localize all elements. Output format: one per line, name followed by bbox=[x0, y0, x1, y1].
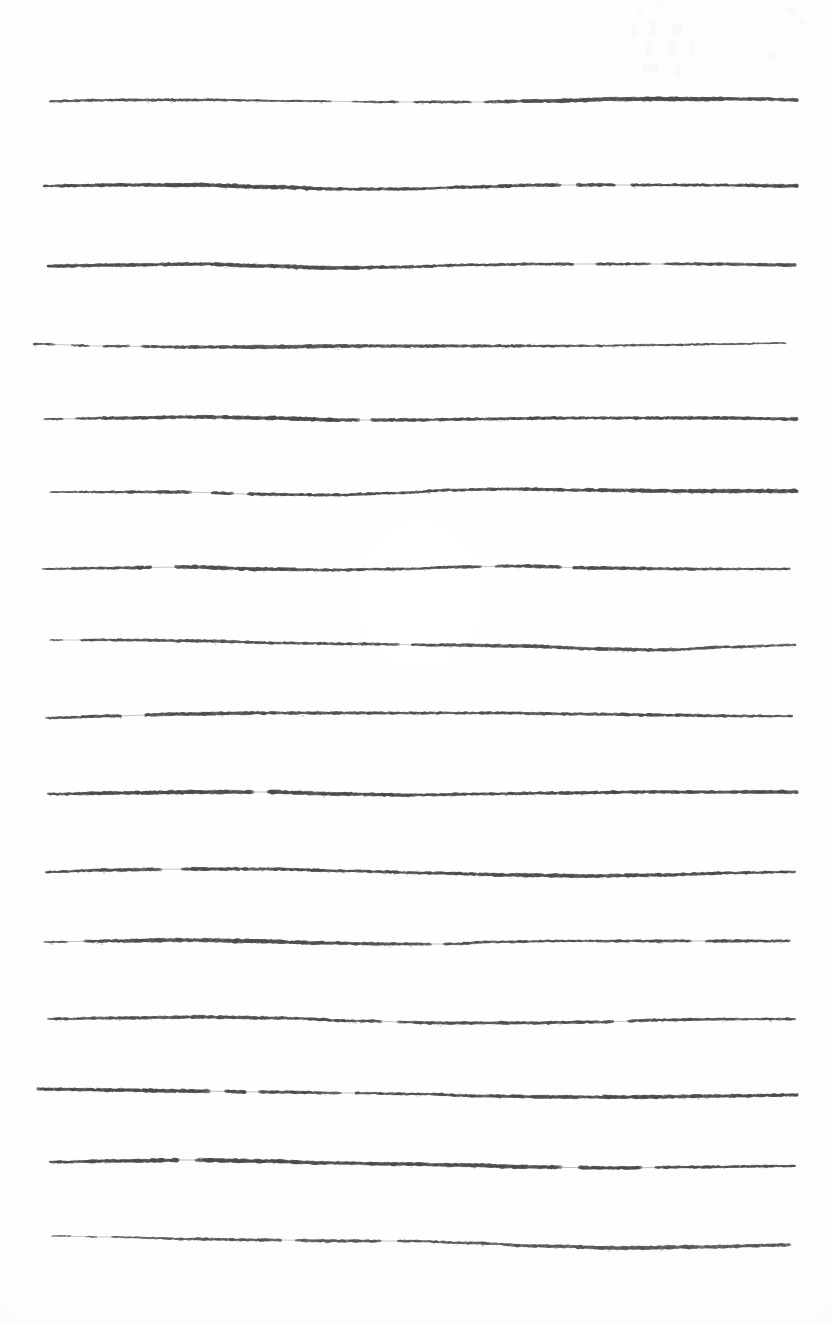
ink-line-12 bbox=[44, 937, 790, 947]
ink-line-2 bbox=[44, 182, 797, 193]
ink-line-11 bbox=[46, 866, 795, 879]
ink-line-5 bbox=[44, 415, 797, 423]
ink-line-4 bbox=[34, 342, 786, 350]
ink-line-9 bbox=[46, 711, 792, 720]
ink-line-6 bbox=[50, 487, 798, 497]
ink-line-14 bbox=[38, 1088, 799, 1100]
ink-line-13 bbox=[48, 1015, 795, 1027]
ink-line-3 bbox=[48, 261, 796, 270]
scanned-page bbox=[0, 0, 832, 1324]
ink-line-10 bbox=[48, 789, 797, 798]
ink-line-8 bbox=[50, 638, 795, 653]
ink-line-7 bbox=[42, 564, 790, 573]
ink-line-16 bbox=[52, 1236, 790, 1252]
ink-lines-layer bbox=[0, 0, 832, 1324]
ink-line-15 bbox=[50, 1158, 795, 1170]
ink-line-1 bbox=[50, 97, 797, 105]
ink-lines-svg bbox=[0, 0, 832, 1324]
